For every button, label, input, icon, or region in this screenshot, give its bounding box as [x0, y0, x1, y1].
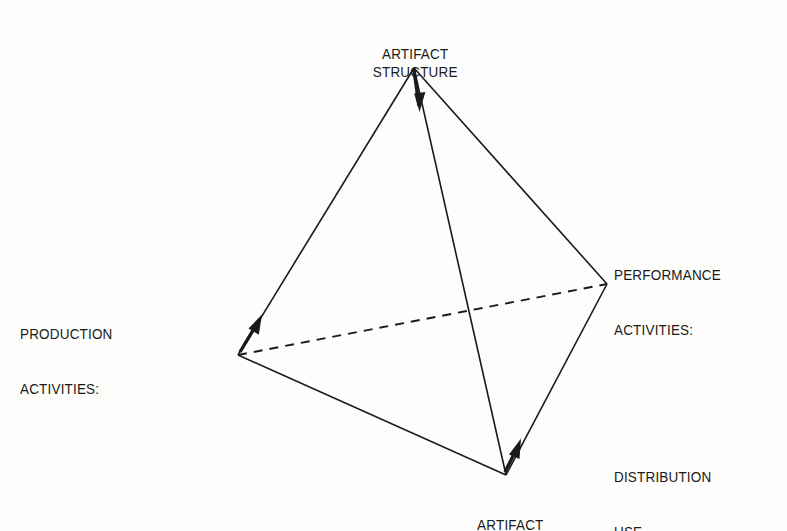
edge-left-bottom [238, 355, 506, 475]
edge-left-right-dashed [238, 284, 607, 355]
production-heading-line2: ACTIVITIES: [20, 380, 192, 398]
performance-heading-line1: PERFORMANCE [614, 266, 748, 284]
edge-bottom-right [506, 284, 607, 475]
performance-spacer [614, 376, 748, 394]
vertex-label-artifact-properties: ARTIFACT PROPERTIES [466, 479, 555, 531]
edge-structure-right [414, 68, 607, 284]
production-activities-block: PRODUCTION ACTIVITIES: MATERIALSSELECTIO… [20, 288, 192, 531]
list-item: USE [614, 523, 748, 531]
edge-structure-bottom [414, 68, 506, 475]
performance-activities-block: PERFORMANCE ACTIVITIES: DISTRIBUTION USE… [614, 229, 748, 531]
production-heading-line1: PRODUCTION [20, 325, 192, 343]
list-item: DISTRIBUTION [614, 468, 748, 486]
arrowhead-toward-performance [505, 439, 521, 473]
production-item-col-b: SELECTION [100, 527, 178, 531]
production-activity-list: MATERIALSSELECTION MATERIALSSYNTHESIS MA… [20, 490, 192, 531]
production-item-col-a: MATERIALS [20, 527, 100, 531]
artifact-properties-text: ARTIFACT PROPERTIES [466, 516, 555, 531]
list-item: MATERIALSSELECTION [20, 527, 192, 531]
performance-activity-list: DISTRIBUTION USE TECHNO-FUNCTION SOCIO-F… [614, 431, 748, 531]
edge-structure-left [238, 68, 414, 355]
performance-heading-line2: ACTIVITIES: [614, 321, 748, 339]
artifact-structure-text: ARTIFACT STRUCTURE [373, 45, 458, 82]
production-spacer [20, 435, 192, 453]
vertex-label-artifact-structure: ARTIFACT STRUCTURE [373, 8, 458, 100]
arrowhead-toward-structure [240, 315, 262, 353]
